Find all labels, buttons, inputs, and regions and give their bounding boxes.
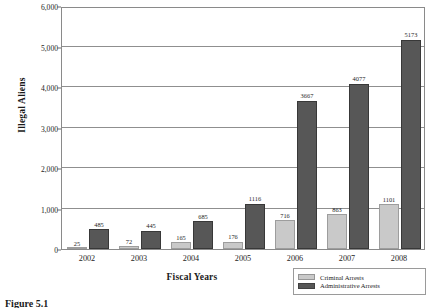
legend-swatch-administrative-arrests xyxy=(298,283,315,289)
bar-2008-criminal xyxy=(379,204,399,249)
y-tick-label: 4,000 xyxy=(6,84,58,93)
plot-area: 2548572445165685176111671636678634077110… xyxy=(61,7,425,250)
y-tick-label: 6,000 xyxy=(6,3,58,12)
y-axis-title: Illegal Aliens xyxy=(17,45,27,165)
y-tick-label: 1,000 xyxy=(6,205,58,214)
bar-value-label: 5173 xyxy=(405,31,418,38)
x-tick-label-2007: 2007 xyxy=(339,254,355,263)
x-tick-label-2006: 2006 xyxy=(287,254,303,263)
y-tick-label: 3,000 xyxy=(6,124,58,133)
x-tick-label-2004: 2004 xyxy=(183,254,199,263)
x-tick-label-2002: 2002 xyxy=(79,254,95,263)
legend-label-criminal-arrests: Criminal Arrests xyxy=(320,274,364,281)
y-tick-label: 2,000 xyxy=(6,165,58,174)
x-tick-label-2005: 2005 xyxy=(235,254,251,263)
y-tick-label: 0 xyxy=(6,246,58,255)
chart-legend: Criminal Arrests Administrative Arrests xyxy=(293,268,426,295)
y-tick-label: 5,000 xyxy=(6,43,58,52)
legend-swatch-criminal-arrests xyxy=(298,274,315,280)
bar-value-label: 1101 xyxy=(383,196,396,203)
bar-group-2008: 11015173 xyxy=(62,8,424,249)
x-axis-title: Fiscal Years xyxy=(112,272,272,282)
x-tick-label-2008: 2008 xyxy=(391,254,407,263)
bar-series-group: 2548572445165685176111671636678634077110… xyxy=(62,8,424,249)
legend-item-administrative-arrests: Administrative Arrests xyxy=(298,282,421,289)
x-tick-label-2003: 2003 xyxy=(131,254,147,263)
legend-label-administrative-arrests: Administrative Arrests xyxy=(320,282,380,289)
legend-item-criminal-arrests: Criminal Arrests xyxy=(298,274,421,281)
figure-container: Illegal Aliens 01,0002,0003,0004,0005,00… xyxy=(0,0,433,308)
figure-caption: Figure 5.1 xyxy=(5,298,48,308)
bar-2008-administrative xyxy=(401,40,421,250)
